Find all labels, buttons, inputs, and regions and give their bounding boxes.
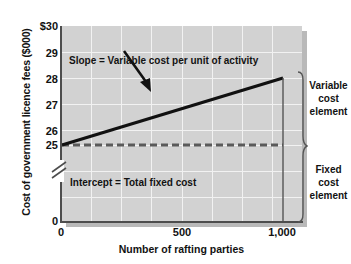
intercept-annotation: Intercept = Total fixed cost bbox=[70, 177, 196, 188]
fixed-cost-line-2: cost bbox=[306, 176, 351, 189]
variable-cost-element-label: Variable cost element bbox=[306, 79, 351, 118]
fixed-cost-element-label: Fixed cost element bbox=[306, 163, 351, 202]
y-tick-28: 28 bbox=[24, 73, 58, 85]
y-tick-29: 29 bbox=[24, 47, 58, 59]
x-tick-1000: 1,000 bbox=[252, 226, 312, 238]
y-tick-25: 25 bbox=[24, 139, 58, 151]
y-axis-line bbox=[60, 26, 62, 222]
fixed-cost-line-3: element bbox=[306, 189, 351, 202]
y-axis-tick-labels: $30 29 28 27 26 25 0 bbox=[22, 0, 58, 264]
total-cost-line bbox=[62, 78, 283, 145]
variable-cost-line-2: cost bbox=[306, 92, 351, 105]
y-axis-break-icon bbox=[48, 160, 70, 182]
variable-cost-line-1: Variable bbox=[306, 79, 351, 92]
y-tick-30: $30 bbox=[24, 20, 58, 32]
slope-annotation: Slope = Variable cost per unit of activi… bbox=[69, 55, 258, 66]
y-tick-26: 26 bbox=[24, 125, 58, 137]
x-tick-0: 0 bbox=[31, 226, 91, 238]
x-axis-line bbox=[60, 221, 303, 223]
y-tick-27: 27 bbox=[24, 99, 58, 111]
cost-behaviour-chart: Cost of government licence fees ($000) $… bbox=[0, 0, 351, 264]
variable-cost-line-3: element bbox=[306, 105, 351, 118]
x-tick-500: 500 bbox=[152, 226, 212, 238]
fixed-cost-line-1: Fixed bbox=[306, 163, 351, 176]
x-axis-title: Number of rafting parties bbox=[61, 243, 302, 255]
